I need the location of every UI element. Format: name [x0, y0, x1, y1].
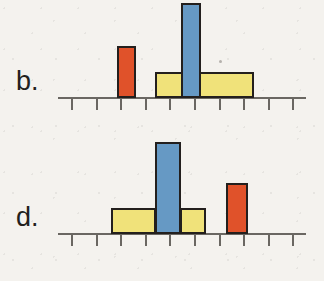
- axis-tick: [292, 235, 294, 246]
- axis-tick: [268, 235, 270, 246]
- figure-canvas: b.d.: [0, 0, 324, 281]
- bar-blue: [181, 3, 201, 98]
- axis-tick: [194, 235, 196, 246]
- axis-tick: [145, 235, 147, 246]
- axis-tick: [96, 235, 98, 246]
- axis-tick: [120, 235, 122, 246]
- axis-tick: [71, 235, 73, 246]
- chart-panel: d.: [0, 0, 324, 281]
- axis-tick: [243, 235, 245, 246]
- bar-yellow: [180, 208, 206, 234]
- panel-label: d.: [16, 204, 39, 231]
- axis-tick: [219, 235, 221, 246]
- bar-yellow: [155, 72, 254, 98]
- bar-red: [117, 46, 136, 98]
- bar-blue: [155, 142, 181, 234]
- axis-tick: [169, 235, 171, 246]
- bar-yellow: [111, 208, 156, 234]
- bar-red: [226, 183, 248, 234]
